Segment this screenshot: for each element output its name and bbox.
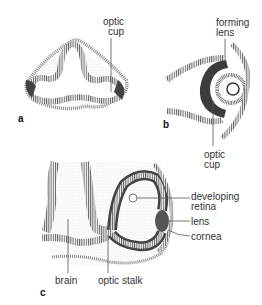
label-optic-cup-a-2: cup [108,26,125,37]
label-cornea: cornea [191,231,222,242]
panel-label-a: a [18,113,24,124]
panel-b: forming lens optic cup b [163,17,249,170]
label-lens: lens [191,216,209,227]
label-optic-cup-b-2: cup [204,159,221,170]
retina-marker [129,194,137,202]
panel-c: developing retina lens cornea brain opti… [40,160,239,298]
panel-label-c: c [40,287,46,298]
label-forming-lens-2: lens [216,27,234,38]
label-brain: brain [55,275,77,286]
panel-label-b: b [163,119,169,130]
lens-lumen [227,83,239,95]
panel-a: optic cup a [18,16,127,124]
eye-development-diagram: optic cup a forming lens optic cup b [0,0,262,305]
label-optic-stalk: optic stalk [98,275,143,286]
label-developing-retina-2: retina [191,201,216,212]
